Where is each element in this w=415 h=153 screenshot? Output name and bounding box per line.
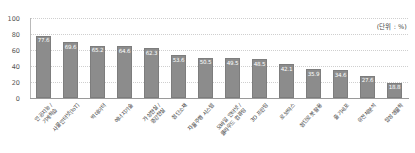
x-tick-label: 유전체분석: [356, 102, 377, 124]
bar-slot[interactable]: 64.6: [117, 18, 132, 98]
bar[interactable]: 49.5: [225, 58, 240, 98]
bar-value-label: 69.6: [64, 45, 77, 51]
bar[interactable]: 34.6: [333, 70, 348, 98]
bar-value-label: 65.2: [91, 48, 104, 54]
bar-slot[interactable]: 27.6: [360, 18, 375, 98]
bar-value-label: 64.6: [118, 49, 131, 55]
bar[interactable]: 42.1: [279, 64, 294, 98]
bar[interactable]: 53.6: [171, 55, 186, 98]
bars-layer: 77.669.665.264.662.353.650.549.548.542.1…: [30, 18, 408, 98]
bar-value-label: 27.6: [361, 78, 374, 84]
bar-slot[interactable]: 42.1: [279, 18, 294, 98]
bar[interactable]: 50.5: [198, 58, 213, 98]
bar-slot[interactable]: 34.6: [333, 18, 348, 98]
bar-slot[interactable]: 53.6: [171, 18, 186, 98]
y-tick-label: 60: [0, 47, 20, 55]
bar-slot[interactable]: 69.6: [63, 18, 78, 98]
bar-slot[interactable]: 35.9: [306, 18, 321, 98]
bar[interactable]: 65.2: [90, 46, 105, 98]
x-tick-label: 자율주행 시스템: [186, 102, 215, 132]
y-tick-label: 80: [0, 31, 20, 39]
bar-slot[interactable]: 77.6: [36, 18, 51, 98]
bar-slot[interactable]: 18.8: [387, 18, 402, 98]
bar-slot[interactable]: 65.2: [90, 18, 105, 98]
y-tick-label: 100: [0, 15, 20, 23]
bar-value-label: 35.9: [307, 72, 320, 78]
x-tick-label: 합성생물학: [383, 102, 404, 124]
bar[interactable]: 64.6: [117, 46, 132, 98]
bar[interactable]: 27.6: [360, 76, 375, 98]
bar[interactable]: 35.9: [306, 69, 321, 98]
y-tick-label: 40: [0, 63, 20, 71]
bar[interactable]: 18.8: [387, 83, 402, 98]
x-tick-label: 첨단로봇 활용: [298, 102, 324, 129]
bar-value-label: 42.1: [280, 67, 293, 73]
bar-value-label: 62.3: [145, 51, 158, 57]
bar[interactable]: 69.6: [63, 42, 78, 98]
x-tick-label: 가상현실 /증강현실: [141, 102, 166, 128]
bar-value-label: 18.8: [388, 85, 401, 91]
x-tick-label: 첨단소재: [170, 102, 188, 121]
bar-slot[interactable]: 50.5: [198, 18, 213, 98]
x-tick-label: 에너지기술: [113, 102, 134, 124]
bar[interactable]: 62.3: [144, 48, 159, 98]
bar-slot[interactable]: 49.5: [225, 18, 240, 98]
x-tick-label: 모바일 인터넷 /클라우드 컴퓨팅: [213, 102, 247, 137]
x-tick-label: 3D 프린팅: [249, 102, 270, 124]
bar-value-label: 48.5: [253, 62, 266, 68]
x-tick-label: 줄기세포: [332, 102, 350, 121]
bar-slot[interactable]: 62.3: [144, 18, 159, 98]
y-tick-label: 0: [0, 95, 20, 103]
bar-value-label: 50.5: [199, 60, 212, 66]
bar-chart: (단위 : %) 020406080100 77.669.665.264.662…: [0, 0, 415, 153]
bar-value-label: 34.6: [334, 73, 347, 79]
x-tick-label: 빅데이터: [89, 102, 107, 121]
y-tick-label: 20: [0, 79, 20, 87]
bar[interactable]: 77.6: [36, 36, 51, 98]
x-axis-labels: 인공지능 /기계학습사물인터넷(IoT)빅데이터에너지기술가상현실 /증강현실첨…: [30, 100, 408, 153]
bar-slot[interactable]: 48.5: [252, 18, 267, 98]
bar-value-label: 53.6: [172, 58, 185, 64]
x-tick-label: 로보틱스: [278, 102, 296, 121]
bar-value-label: 77.6: [37, 38, 50, 44]
x-axis-line: [30, 98, 409, 99]
bar[interactable]: 48.5: [252, 59, 267, 98]
bar-value-label: 49.5: [226, 61, 239, 67]
